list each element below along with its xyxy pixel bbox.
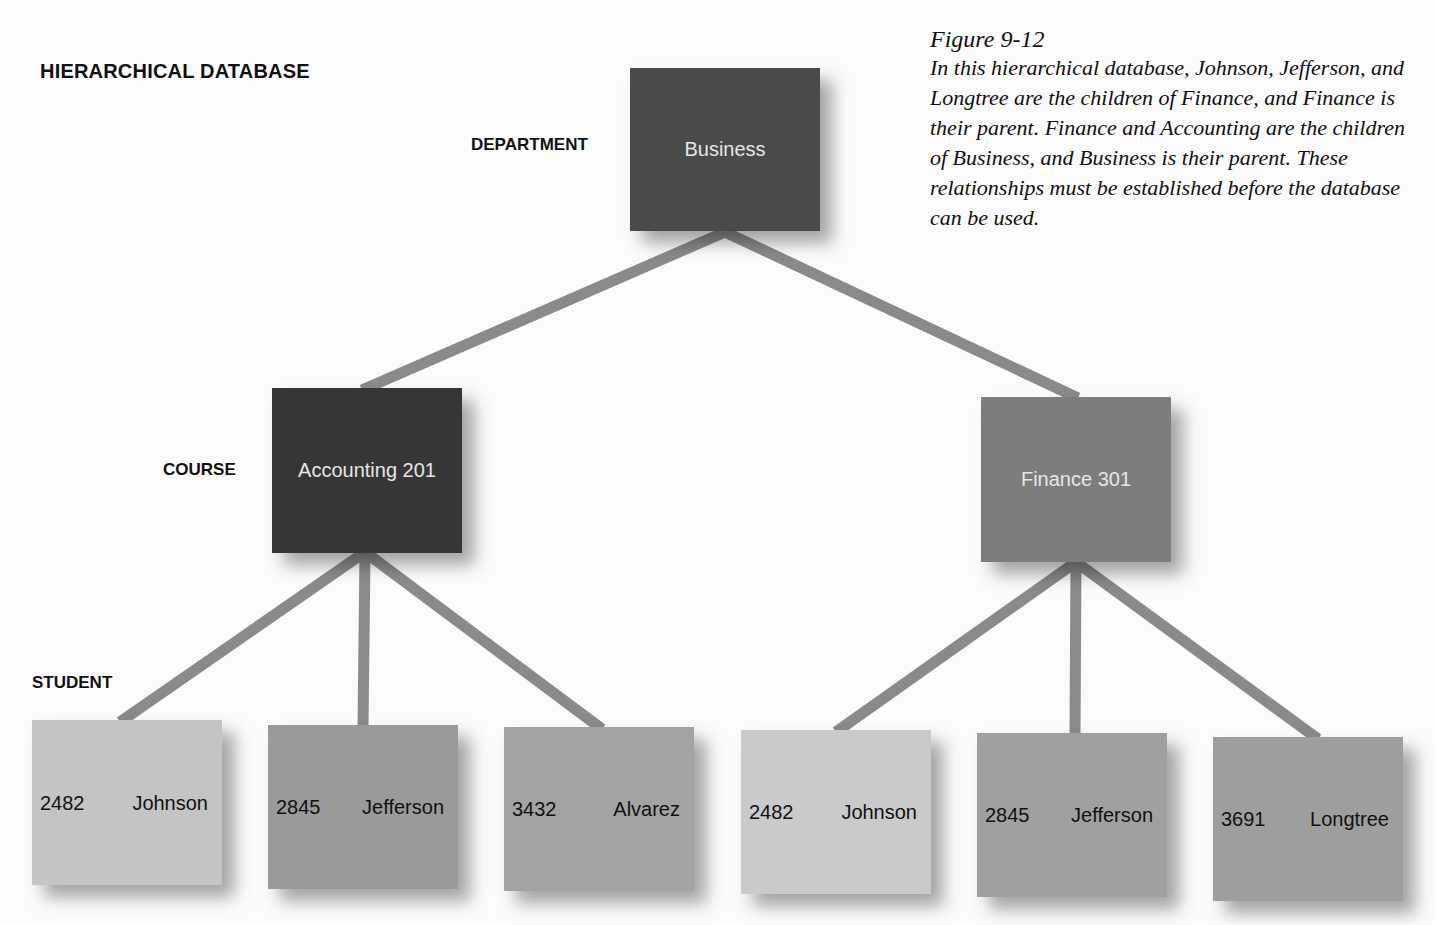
node-department-business: Business xyxy=(630,68,820,231)
node-label: Business xyxy=(684,138,765,161)
student-name: Johnson xyxy=(132,791,208,814)
level-label-course: COURSE xyxy=(163,460,236,480)
student-id: 2845 xyxy=(276,796,321,819)
student-id: 2482 xyxy=(40,791,85,814)
node-student: 2482 Johnson xyxy=(32,720,222,885)
node-label: Finance 301 xyxy=(1021,468,1131,491)
level-label-student: STUDENT xyxy=(32,673,112,693)
link-finance-student-1 xyxy=(836,562,1076,732)
figure-caption: Figure 9-12 In this hierarchical databas… xyxy=(930,25,1420,233)
level-label-department: DEPARTMENT xyxy=(471,135,588,155)
student-name: Alvarez xyxy=(613,798,680,821)
link-business-finance xyxy=(725,232,1078,398)
node-student: 2845 Jefferson xyxy=(268,725,458,889)
link-finance-student-2 xyxy=(1075,562,1076,735)
student-name: Jefferson xyxy=(362,796,444,819)
student-name: Johnson xyxy=(841,801,917,824)
student-id: 2845 xyxy=(985,804,1030,827)
link-accounting-student-3 xyxy=(365,552,602,729)
node-course-accounting: Accounting 201 xyxy=(272,388,462,553)
node-student: 2482 Johnson xyxy=(741,730,931,894)
link-business-accounting xyxy=(362,232,725,390)
node-student: 2845 Jefferson xyxy=(977,733,1167,897)
link-accounting-student-2 xyxy=(363,552,365,727)
figure-number: Figure 9-12 xyxy=(930,25,1420,53)
diagram-title: HIERARCHICAL DATABASE xyxy=(40,60,310,83)
figure-caption-text: In this hierarchical database, Johnson, … xyxy=(930,53,1420,233)
student-id: 2482 xyxy=(749,801,794,824)
student-name: Longtree xyxy=(1310,808,1389,831)
student-id: 3691 xyxy=(1221,808,1266,831)
node-student: 3432 Alvarez xyxy=(504,727,694,891)
link-finance-student-3 xyxy=(1076,562,1318,739)
student-name: Jefferson xyxy=(1071,804,1153,827)
student-id: 3432 xyxy=(512,798,557,821)
link-accounting-student-1 xyxy=(120,552,365,722)
node-course-finance: Finance 301 xyxy=(981,397,1171,562)
node-label: Accounting 201 xyxy=(298,459,436,482)
node-student: 3691 Longtree xyxy=(1213,737,1403,901)
